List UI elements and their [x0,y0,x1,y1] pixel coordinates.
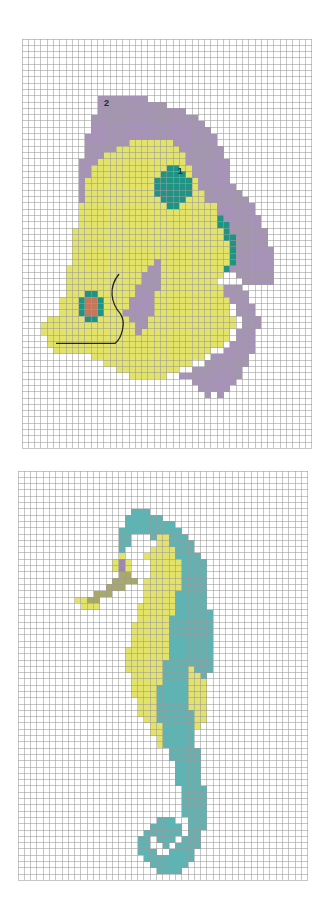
fish-chart-canvas: 21 [22,39,312,449]
grid-lines [18,471,308,880]
region-number-label: 2 [104,98,109,108]
seahorse-chart-canvas [18,471,308,881]
seahorse-chart [18,471,308,881]
region-number-label: 1 [178,166,183,176]
grid-lines [22,39,312,448]
fish-chart: 21 [22,39,312,449]
